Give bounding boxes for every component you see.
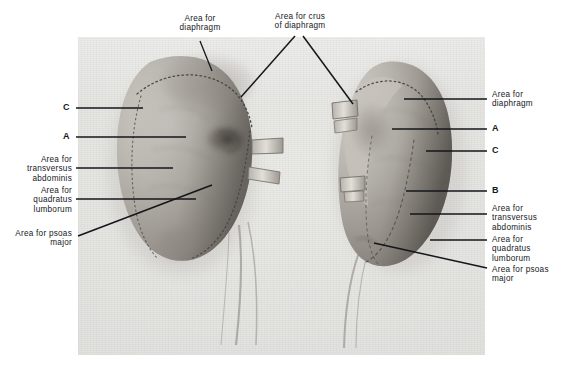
right-kidney-specimen <box>332 62 466 348</box>
key-a-right: A <box>492 124 506 133</box>
key-b-right: B <box>492 186 506 195</box>
area-for-quadratus-lumborum-right: Area for quadratus lumborum <box>492 235 560 263</box>
area-for-transversus-abdominis-right: Area for transversus abdominis <box>492 204 560 232</box>
right-kidney-vessels <box>344 247 368 348</box>
area-for-transversus-abdominis-left: Area for transversus abdominis <box>6 155 72 183</box>
area-for-diaphragm-right: Area for diaphragm <box>492 90 558 109</box>
key-c-right: C <box>492 146 506 155</box>
left-kidney-hilum <box>206 124 250 154</box>
leader-crus-left <box>241 36 295 97</box>
area-for-crus-of-diaphragm: Area for crus of diaphragm <box>252 12 348 31</box>
area-for-psoas-major-right: Area for psoas major <box>492 265 561 284</box>
figure-graphics-layer <box>0 0 561 385</box>
area-for-quadratus-lumborum-left: Area for quadratus lumborum <box>6 186 72 214</box>
key-c-left: C <box>56 103 70 112</box>
figure-root: Area for diaphragmArea for crus of diaph… <box>0 0 561 385</box>
area-for-psoas-major-left: Area for psoas major <box>2 229 72 248</box>
area-for-diaphragm-top: Area for diaphragm <box>152 14 248 33</box>
leader-crus-right <box>303 36 353 104</box>
left-kidney-lower-pole-shading <box>160 228 196 258</box>
key-a-left: A <box>56 132 70 141</box>
